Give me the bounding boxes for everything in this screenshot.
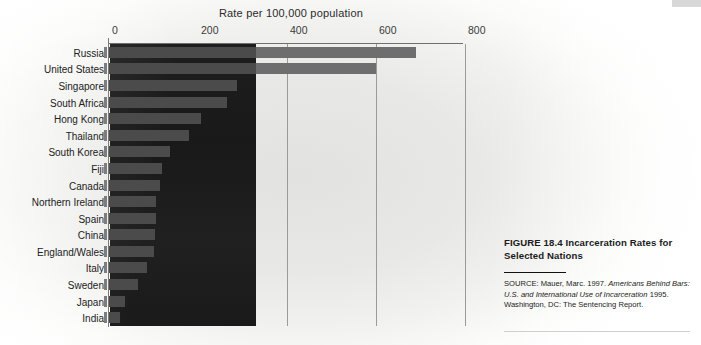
bar-axis-stub [104,246,107,257]
category-label-hong-kong: Hong Kong [54,114,104,125]
bar-thailand [109,130,189,141]
bar-italy [109,262,147,273]
bar-sweden [109,279,138,290]
caption-bottom-rule [504,331,690,332]
bar-axis-stub [104,146,107,157]
bar-fiji [109,163,162,174]
bar-spain [109,213,156,224]
bar-segment-on-paper [256,47,416,58]
bar-south-africa [109,97,227,108]
bar-axis-stub [104,130,107,141]
figure-caption: FIGURE 18.4 Incarceration Rates for Sele… [504,237,690,311]
x-tick-label-600: 600 [379,24,397,36]
bar-segment-over-ink [109,47,256,58]
category-label-canada: Canada [69,181,104,192]
category-label-italy: Italy [86,263,104,274]
category-label-spain: Spain [78,214,104,225]
gridline-800 [465,44,466,326]
bar-china [109,229,155,240]
bar-south-korea [109,146,170,157]
category-label-india: India [82,313,104,324]
x-tick-label-0: 0 [112,24,118,36]
bar-axis-stub [104,113,107,124]
bar-russia [109,47,416,58]
bar-axis-stub [104,229,107,240]
category-label-russia: Russia [73,48,104,59]
bar-japan [109,296,125,307]
category-label-thailand: Thailand [66,131,104,142]
bar-india [109,312,120,323]
category-label-england-wales: England/Wales [37,247,104,258]
bar-segment-over-ink [109,63,256,74]
gridline-400 [287,44,288,326]
category-label-sweden: Sweden [68,280,104,291]
bar-axis-stub [104,262,107,273]
bar-singapore [109,80,237,91]
bar-united-states [109,63,376,74]
chart-axis-title: Rate per 100,000 population [196,7,386,19]
x-tick-label-400: 400 [290,24,308,36]
bar-axis-stub [104,196,107,207]
bar-canada [109,180,160,191]
source-label: SOURCE: [504,279,539,288]
category-label-china: China [78,230,104,241]
bar-axis-stub [104,213,107,224]
bar-england-wales [109,246,154,257]
x-tick-label-200: 200 [201,24,219,36]
bar-axis-stub [104,80,107,91]
source-text-1: Mauer, Marc. 1997. [541,279,606,288]
category-label-south-korea: South Korea [48,147,104,158]
caption-divider [504,272,566,273]
y-axis-category-labels: RussiaUnited StatesSingaporeSouth Africa… [0,44,104,326]
caption-title: FIGURE 18.4 Incarceration Rates for Sele… [504,237,690,262]
bar-axis-stub [104,47,107,58]
bar-axis-stub [104,97,107,108]
gridline-600 [376,44,377,326]
bar-axis-stub [104,180,107,191]
caption-source: SOURCE: Mauer, Marc. 1997. Americans Beh… [504,279,690,311]
bar-axis-stub [104,63,107,74]
bar-northern-ireland [109,196,156,207]
bar-segment-on-paper [256,63,376,74]
bar-axis-stub [104,312,107,323]
category-label-south-africa: South Africa [50,98,104,109]
category-label-northern-ireland: Northern Ireland [32,197,104,208]
bar-axis-stub [104,279,107,290]
x-tick-label-800: 800 [468,24,486,36]
category-label-fiji: Fiji [91,164,104,175]
bar-axis-stub [104,163,107,174]
category-label-japan: Japan [77,297,104,308]
category-label-singapore: Singapore [58,81,104,92]
bar-axis-stub [104,296,107,307]
bar-hong-kong [109,113,201,124]
category-label-united-states: United States [44,64,104,75]
scan-artifact-corner [672,0,701,7]
incarceration-rates-chart: Rate per 100,000 population 020040060080… [0,0,500,345]
